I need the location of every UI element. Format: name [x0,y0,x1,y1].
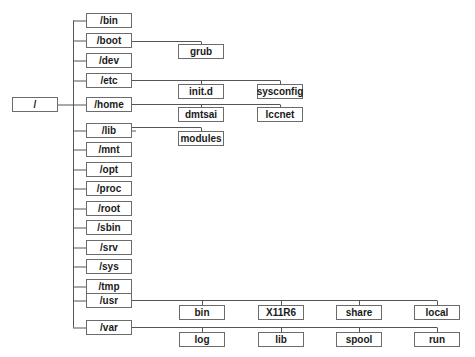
subdir-node-initd[interactable]: init.d [178,84,224,99]
subdir-node-grub[interactable]: grub [178,44,224,59]
root-node[interactable]: / [12,97,58,112]
subdir-node-log[interactable]: log [179,332,225,347]
subdir-node-share[interactable]: share [336,305,382,320]
connector-lines [0,0,475,357]
dir-node-var[interactable]: /var [86,320,132,335]
dir-node-bin[interactable]: /bin [86,13,132,28]
dir-node-etc[interactable]: /etc [86,73,132,88]
subdir-node-x11r6[interactable]: X11R6 [258,305,304,320]
subdir-node-local[interactable]: local [414,305,460,320]
dir-node-root[interactable]: /root [86,201,132,216]
subdir-node-dmtsai[interactable]: dmtsai [178,107,224,122]
subdir-node-lccnet[interactable]: lccnet [257,107,303,122]
subdir-node-bin[interactable]: bin [179,305,225,320]
dir-node-sbin[interactable]: /sbin [86,220,132,235]
dir-node-usr[interactable]: /usr [86,293,132,308]
subdir-node-lib[interactable]: lib [258,332,304,347]
dir-node-dev[interactable]: /dev [86,53,132,68]
dir-node-mnt[interactable]: /mnt [86,142,132,157]
subdir-node-run[interactable]: run [414,332,460,347]
subdir-node-modules[interactable]: modules [178,131,224,146]
subdir-node-spool[interactable]: spool [336,332,382,347]
dir-node-lib[interactable]: /lib [86,123,132,138]
dir-node-opt[interactable]: /opt [86,162,132,177]
dir-node-tmp[interactable]: /tmp [86,279,132,294]
subdir-node-sysconfig[interactable]: sysconfig [257,84,303,99]
dir-node-home[interactable]: /home [86,97,132,112]
dir-node-sys[interactable]: /sys [86,259,132,274]
dir-node-boot[interactable]: /boot [86,33,132,48]
filesystem-tree-diagram: / /bin/boot/dev/etc/home/lib/mnt/opt/pro… [0,0,475,357]
dir-node-proc[interactable]: /proc [86,181,132,196]
dir-node-srv[interactable]: /srv [86,240,132,255]
